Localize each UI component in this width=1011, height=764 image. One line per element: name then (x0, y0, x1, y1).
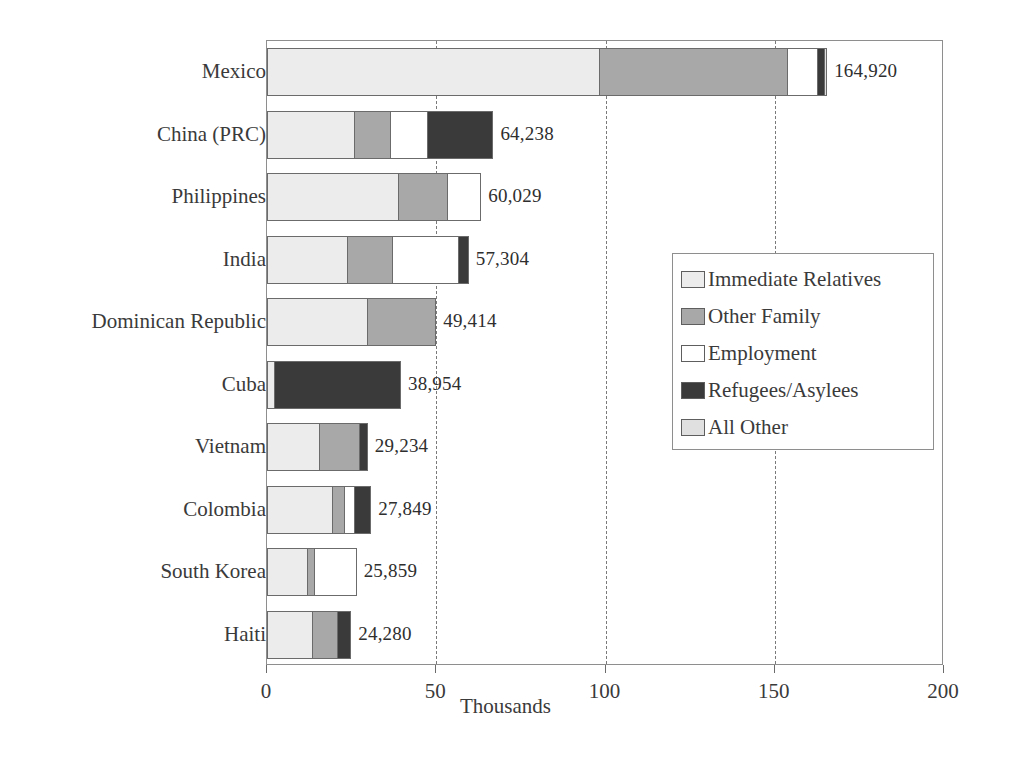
bar-value-label: 64,238 (500, 123, 553, 145)
bar-segment[interactable] (268, 424, 319, 470)
bar-segment[interactable] (274, 362, 400, 408)
stacked-bar[interactable] (267, 236, 469, 284)
category-label-india: India (0, 246, 266, 271)
bar-segment[interactable] (337, 612, 350, 658)
bar-segment[interactable] (268, 237, 347, 283)
legend-label: Immediate Relatives (708, 269, 881, 290)
x-tick-mark-50 (435, 665, 436, 673)
x-axis-title: Thousands (0, 694, 1011, 719)
legend-item[interactable]: Refugees/Asylees (681, 372, 933, 409)
stacked-bar[interactable] (267, 611, 351, 659)
bar-segment[interactable] (268, 549, 307, 595)
bar-segment[interactable] (268, 112, 354, 158)
category-label-south-korea: South Korea (0, 559, 266, 584)
x-tick-mark-100 (605, 665, 606, 673)
category-label-dominican-republic: Dominican Republic (0, 309, 266, 334)
legend-item[interactable]: Other Family (681, 298, 933, 335)
bar-segment[interactable] (787, 49, 817, 95)
legend-label: Other Family (708, 306, 821, 327)
stacked-bar-chart: MexicoChina (PRC)PhilippinesIndiaDominic… (0, 0, 1011, 764)
bar-segment[interactable] (824, 49, 826, 95)
bar-value-label: 57,304 (476, 248, 529, 270)
x-tick-mark-150 (774, 665, 775, 673)
bar-segment[interactable] (314, 549, 355, 595)
bar-segment[interactable] (599, 49, 787, 95)
x-tick-mark-0 (266, 665, 267, 673)
bar-value-label: 60,029 (488, 185, 541, 207)
bar-segment[interactable] (268, 299, 367, 345)
stacked-bar[interactable] (267, 423, 368, 471)
bar-value-label: 29,234 (375, 435, 428, 457)
legend-label: All Other (708, 417, 788, 438)
bar-segment[interactable] (392, 237, 457, 283)
legend: Immediate RelativesOther FamilyEmploymen… (672, 253, 934, 450)
category-label-colombia: Colombia (0, 496, 266, 521)
legend-swatch-icon (681, 345, 705, 362)
category-label-vietnam: Vietnam (0, 434, 266, 459)
bar-value-label: 24,280 (358, 623, 411, 645)
bar-segment[interactable] (367, 299, 435, 345)
bar-segment[interactable] (347, 237, 392, 283)
bar-segment[interactable] (268, 49, 599, 95)
bar-segment[interactable] (268, 612, 312, 658)
legend-item[interactable]: Immediate Relatives (681, 261, 933, 298)
bar-segment[interactable] (319, 424, 359, 470)
legend-label: Refugees/Asylees (708, 380, 858, 401)
bar-segment[interactable] (390, 112, 427, 158)
legend-swatch-icon (681, 308, 705, 325)
bar-segment[interactable] (312, 612, 337, 658)
stacked-bar[interactable] (267, 361, 401, 409)
category-label-china-prc: China (PRC) (0, 121, 266, 146)
legend-label: Employment (708, 343, 817, 364)
category-label-haiti: Haiti (0, 621, 266, 646)
bar-segment[interactable] (447, 174, 480, 220)
legend-item[interactable]: All Other (681, 409, 933, 446)
category-label-philippines: Philippines (0, 184, 266, 209)
bar-segment[interactable] (427, 112, 492, 158)
legend-swatch-icon (681, 271, 705, 288)
bar-segment[interactable] (307, 549, 314, 595)
bar-segment[interactable] (817, 49, 824, 95)
bar-value-label: 164,920 (834, 60, 897, 82)
bar-value-label: 27,849 (378, 498, 431, 520)
stacked-bar[interactable] (267, 548, 357, 596)
bar-segment[interactable] (344, 487, 354, 533)
bar-value-label: 25,859 (364, 560, 417, 582)
category-label-mexico: Mexico (0, 59, 266, 84)
bar-segment[interactable] (268, 174, 398, 220)
x-tick-mark-200 (943, 665, 944, 673)
legend-swatch-icon (681, 382, 705, 399)
stacked-bar[interactable] (267, 48, 827, 96)
bar-value-label: 38,954 (408, 373, 461, 395)
category-label-cuba: Cuba (0, 371, 266, 396)
bar-segment[interactable] (458, 237, 468, 283)
stacked-bar[interactable] (267, 111, 493, 159)
bar-segment[interactable] (354, 112, 390, 158)
stacked-bar[interactable] (267, 173, 481, 221)
bar-value-label: 49,414 (443, 310, 496, 332)
bar-segment[interactable] (332, 487, 344, 533)
bar-segment[interactable] (268, 487, 332, 533)
bar-segment[interactable] (398, 174, 447, 220)
bar-segment[interactable] (354, 487, 370, 533)
stacked-bar[interactable] (267, 486, 371, 534)
bar-segment[interactable] (359, 424, 367, 470)
legend-item[interactable]: Employment (681, 335, 933, 372)
stacked-bar[interactable] (267, 298, 436, 346)
legend-swatch-icon (681, 419, 705, 436)
gridline-100 (606, 41, 607, 664)
